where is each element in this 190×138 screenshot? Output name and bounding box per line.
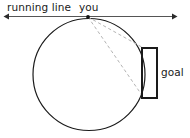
sight-line-lower (88, 17, 143, 96)
you-label: you (79, 2, 99, 13)
you-point (86, 15, 90, 19)
diagram-canvas: running line you goal (0, 0, 190, 138)
running-line-right-arrowhead (172, 14, 178, 20)
goal-label: goal (161, 67, 184, 78)
sight-lines-group (88, 17, 144, 96)
sight-line-upper (88, 17, 144, 48)
running-line-left-arrowhead (4, 14, 10, 20)
running-line-label: running line (7, 2, 71, 13)
goal-rectangle (142, 48, 157, 98)
